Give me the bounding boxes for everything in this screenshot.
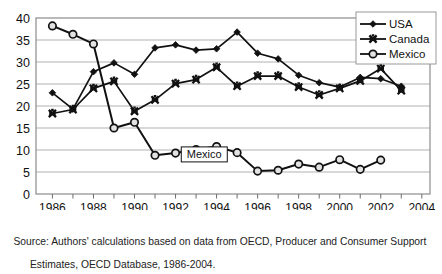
legend-label: Mexico	[389, 48, 425, 60]
y-axis-tick-label: 5	[23, 166, 30, 180]
x-axis-tick-label: 1994	[203, 201, 230, 210]
x-axis-tick-marks	[52, 194, 421, 199]
y-axis-tick-label: 15	[16, 122, 30, 136]
x-axis-tick-label: 1996	[244, 201, 271, 210]
x-axis-tick-label: 1988	[80, 201, 107, 210]
x-axis-labels: 1986198819901992199419961998200020022004	[39, 201, 435, 210]
x-axis-tick-label: 2002	[367, 201, 394, 210]
series-usa	[49, 29, 404, 113]
chart-annotations: Mexico	[181, 147, 227, 162]
chart-legend: USACanadaMexico	[356, 12, 436, 64]
series-canada	[49, 64, 405, 117]
y-axis-tick-label: 40	[16, 12, 30, 26]
y-axis-labels: 0510152025303540	[16, 12, 30, 202]
y-axis-tick-label: 10	[16, 144, 30, 158]
source-line-2: Estimates, OECD Database, 1986-2004.	[2, 259, 440, 271]
y-axis-tick-label: 0	[23, 188, 30, 202]
legend-label: USA	[389, 18, 413, 30]
line-chart: 0510152025303540 19861988199019921994199…	[0, 0, 442, 210]
annotation-label-mexico: Mexico	[181, 147, 227, 162]
y-axis-tick-label: 30	[16, 56, 30, 70]
x-axis-tick-label: 1998	[285, 201, 312, 210]
y-axis-tick-label: 35	[16, 34, 30, 48]
y-axis-tick-label: 25	[16, 78, 30, 92]
y-axis-tick-label: 20	[16, 100, 30, 114]
annotation-text: Mexico	[187, 148, 222, 160]
x-axis-tick-label: 1992	[162, 201, 189, 210]
x-axis-tick-label: 2004	[408, 201, 435, 210]
x-axis-tick-label: 1990	[121, 201, 148, 210]
x-axis-tick-label: 2000	[326, 201, 353, 210]
source-note: Source: Authors' calculations based on d…	[2, 224, 440, 274]
source-line-1: Source: Authors' calculations based on d…	[13, 236, 426, 247]
x-axis-tick-label: 1986	[39, 201, 66, 210]
legend-label: Canada	[389, 33, 430, 45]
